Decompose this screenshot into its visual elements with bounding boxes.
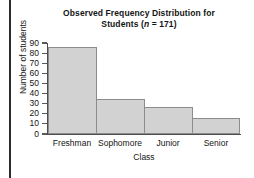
bar-chart-figure: Observed Frequency Distribution for Stud…: [0, 0, 254, 178]
x-axis-label-senior: Senior: [176, 138, 254, 148]
y-axis-tick-label: 0: [15, 130, 39, 139]
bar-senior: [192, 118, 240, 134]
y-axis-tick: [42, 83, 47, 84]
x-axis-line: [47, 134, 241, 135]
y-axis-tick-label: 40: [15, 89, 39, 98]
y-axis-tick-label: 60: [15, 69, 39, 78]
bar-freshman: [48, 47, 97, 134]
chart-title-line-1: Observed Frequency Distribution for: [30, 8, 248, 19]
y-axis-tick-label: 30: [15, 99, 39, 108]
y-axis-tick-label: 80: [15, 49, 39, 58]
plot-area: [48, 43, 240, 134]
chart-title-line-2: Students (n = 171): [30, 19, 248, 30]
y-axis-tick-label: 50: [15, 79, 39, 88]
y-axis-tick: [42, 133, 47, 134]
y-axis-tick-label: 20: [15, 109, 39, 118]
y-axis-tick: [42, 63, 47, 64]
y-axis-tick: [42, 103, 47, 104]
y-axis-tick-label: 90: [15, 39, 39, 48]
chart-title: Observed Frequency Distribution for Stud…: [30, 8, 248, 30]
x-axis-title: Class: [48, 152, 240, 162]
y-axis-tick-label: 70: [15, 59, 39, 68]
y-axis-tick: [42, 73, 47, 74]
y-axis-tick: [42, 113, 47, 114]
chart-title-prefix: Students (: [101, 19, 144, 29]
y-axis-tick-label: 10: [15, 119, 39, 128]
bar-junior: [144, 107, 193, 134]
bar-sophomore: [96, 99, 145, 134]
y-axis-tick: [42, 123, 47, 124]
chart-title-suffix: = 171): [149, 19, 176, 29]
y-axis-tick: [42, 42, 47, 43]
y-axis-tick: [42, 93, 47, 94]
y-axis-tick: [42, 53, 47, 54]
